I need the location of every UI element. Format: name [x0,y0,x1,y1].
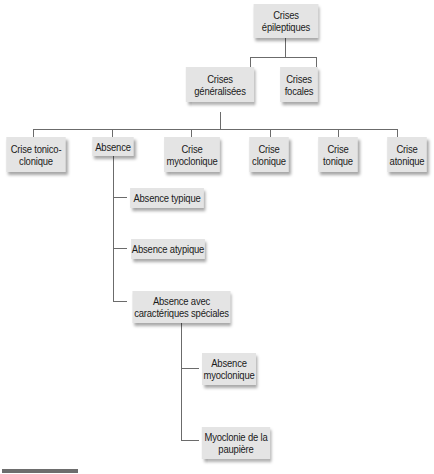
footer-bar [2,469,78,473]
node-crise-clonique: Crise clonique [249,137,289,172]
connector-to-atonique [397,129,398,137]
connector-to-generalisees [250,57,251,67]
connector-to-myoclonie-paupiere [181,440,199,441]
node-absence: Absence [92,137,133,156]
connector-to-myoclonique [191,129,192,137]
connector-to-absence-speciales [113,301,127,302]
node-crise-tonique: Crise tonique [318,137,358,172]
connector-to-focales [316,57,317,67]
connector-to-tonico-clonique [33,129,34,137]
connector-speciales-trunk [181,323,182,441]
node-crises-focales: Crises focales [280,67,318,102]
connector-to-absence-myoclonique [181,368,199,369]
node-absence-speciales: Absence avec caractériques spéciales [132,291,230,323]
connector-to-clonique [270,129,271,137]
connector-level1-horizontal [250,57,317,58]
connector-level2-horizontal [33,129,397,130]
node-absence-typique: Absence typique [130,188,204,208]
node-crise-myoclonique: Crise myoclonique [164,137,220,172]
connector-absence-trunk [113,156,114,302]
node-myoclonie-paupiere: Myoclonie de la paupière [202,427,270,459]
node-crises-generalisees: Crises généralisées [186,67,254,102]
node-crise-tonico-clonique: Crise tonico- clonique [6,137,65,172]
node-crises-epileptiques: Crises épileptiques [254,4,319,38]
connector-root-down [285,38,286,58]
node-absence-atypique: Absence atypique [131,239,205,259]
node-absence-myoclonique: Absence myoclonique [202,353,256,385]
node-crise-atonique: Crise atonique [387,137,427,172]
connector-to-tonique [338,129,339,137]
connector-to-absence-atypique [113,248,127,249]
connector-to-absence-typique [113,197,127,198]
connector-generalisees-down [220,112,221,130]
connector-to-absence [112,129,113,137]
